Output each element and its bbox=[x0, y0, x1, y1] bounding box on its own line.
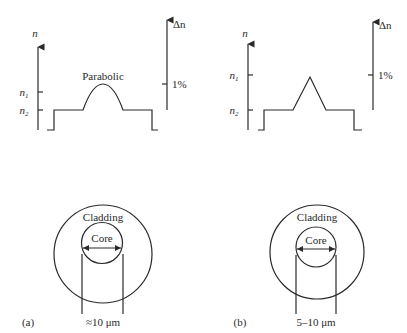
n1-label: n1 bbox=[230, 69, 239, 83]
n2-label: n2 bbox=[230, 104, 240, 118]
panel-a-label: (a) bbox=[22, 316, 35, 329]
n-axis-label: n bbox=[32, 27, 38, 39]
core-diameter-label: ≈10 μm bbox=[86, 316, 121, 328]
cladding-label: Cladding bbox=[297, 211, 338, 223]
panel-b-index-profile: n n1 n2 Δn 1% bbox=[230, 19, 393, 130]
n-axis-label: n bbox=[242, 27, 248, 39]
core-circle bbox=[296, 227, 336, 267]
parabolic-label: Parabolic bbox=[82, 70, 124, 82]
n2-label: n2 bbox=[20, 104, 30, 118]
fiber-index-profile-figure: n n1 n2 Parabolic Δn 1% n n1 n2 Δn 1% Cl… bbox=[0, 0, 407, 333]
delta-n-1pct-label: 1% bbox=[378, 69, 393, 81]
delta-n-axis-label: Δn bbox=[173, 18, 186, 30]
panel-b-cross-section: Cladding Core 5–10 μm (b) bbox=[234, 205, 364, 329]
n1-label: n1 bbox=[20, 86, 29, 100]
core-label: Core bbox=[305, 234, 327, 246]
triangular-profile-curve bbox=[258, 77, 362, 130]
parabolic-profile-curve bbox=[47, 84, 158, 130]
core-diameter-label: 5–10 μm bbox=[296, 316, 336, 328]
panel-b-label: (b) bbox=[234, 316, 247, 329]
panel-a-cross-section: Cladding Core ≈10 μm (a) bbox=[22, 205, 152, 329]
core-label: Core bbox=[91, 232, 113, 244]
cladding-label: Cladding bbox=[83, 211, 124, 223]
delta-n-1pct-label: 1% bbox=[172, 78, 187, 90]
panel-a-index-profile: n n1 n2 Parabolic Δn 1% bbox=[20, 18, 187, 130]
delta-n-axis-label: Δn bbox=[379, 19, 392, 31]
